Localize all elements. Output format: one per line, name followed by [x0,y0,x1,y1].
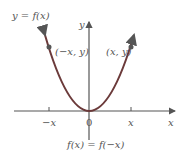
x-axis-label: x [168,117,174,128]
tick-pos-label: x [128,117,134,128]
y-axis-label: y [78,19,85,30]
function-label: y = f(x) [11,10,50,21]
tick-neg-label: −x [42,117,56,128]
point-right-label: (x, y) [106,46,132,57]
point-left [47,45,52,50]
point-left-label: (−x, y) [55,46,89,57]
origin-label: 0 [86,117,92,128]
even-function-diagram: y = f(x) y (−x, y) (x, y) −x 0 x x f(x) … [0,0,183,158]
caption: f(x) = f(−x) [66,139,125,150]
